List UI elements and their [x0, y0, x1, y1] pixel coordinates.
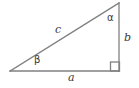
side-label-a: a	[68, 72, 75, 83]
hypotenuse-line	[10, 3, 119, 71]
angle-label-beta: β	[34, 55, 40, 65]
right-triangle-figure: c a b α β	[0, 0, 139, 88]
side-label-b: b	[124, 32, 131, 43]
angle-label-alpha: α	[107, 13, 114, 23]
side-label-c: c	[55, 24, 61, 35]
right-angle-marker-icon	[111, 62, 120, 71]
